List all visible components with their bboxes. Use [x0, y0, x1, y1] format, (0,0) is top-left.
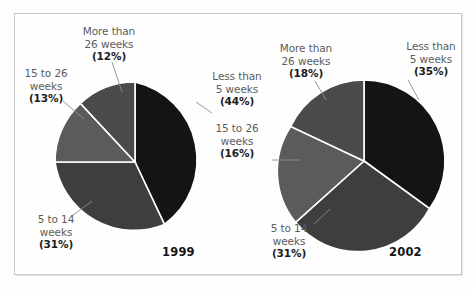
label-line2: weeks: [221, 135, 254, 147]
label-1999-15-to-26-weeks: 15 to 26 weeks (13%): [8, 67, 84, 105]
label-2002-5-to-14-weeks: 5 to 14 weeks (31%): [251, 222, 327, 260]
label-1999-more-than-26-weeks: More than 26 weeks (12%): [63, 25, 155, 63]
label-percent: (44%): [220, 95, 254, 107]
label-line1: 5 to 14: [271, 222, 308, 234]
label-percent: (18%): [289, 67, 323, 79]
label-line1: Less than: [406, 40, 455, 52]
label-line1: Less than: [212, 70, 261, 82]
label-line1: 15 to 26: [24, 67, 67, 79]
label-line2: weeks: [30, 80, 63, 92]
label-line2: 5 weeks: [410, 53, 452, 65]
label-percent: (31%): [39, 238, 73, 250]
label-line1: 5 to 14: [38, 213, 75, 225]
label-1999-5-to-14-weeks: 5 to 14 weeks (31%): [18, 213, 94, 251]
year-label-1999: 1999: [162, 245, 195, 259]
label-line2: 5 weeks: [216, 83, 258, 95]
label-percent: (13%): [29, 92, 63, 104]
label-line2: weeks: [273, 235, 306, 247]
label-percent: (16%): [220, 147, 254, 159]
label-line1: More than: [83, 25, 135, 37]
label-2002-less-than-5-weeks: Less than 5 weeks (35%): [392, 40, 470, 78]
label-line1: 15 to 26: [215, 122, 258, 134]
label-2002-more-than-26-weeks: More than 26 weeks (18%): [260, 42, 352, 80]
label-percent: (31%): [272, 247, 306, 259]
label-percent: (35%): [414, 65, 448, 77]
year-label-2002: 2002: [389, 245, 422, 259]
label-2002-15-to-26-weeks: 15 to 26 weeks (16%): [198, 122, 276, 160]
label-line2: 26 weeks: [282, 55, 331, 67]
pie-chart-figure: More than 26 weeks (12%) 15 to 26 weeks …: [0, 0, 474, 289]
label-line2: weeks: [40, 226, 73, 238]
label-percent: (12%): [92, 50, 126, 62]
label-line2: 26 weeks: [85, 38, 134, 50]
label-line1: More than: [280, 42, 332, 54]
